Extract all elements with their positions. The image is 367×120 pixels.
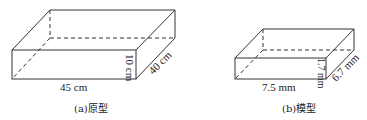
caption-a: (a)原型 xyxy=(74,102,108,114)
caption-b: (b)模型 xyxy=(282,102,316,114)
depth-label-b: 6.7 mm xyxy=(329,51,362,84)
length-label-b: 7.5 mm xyxy=(262,81,296,93)
front-face-b xyxy=(235,58,326,79)
front-face-a xyxy=(12,50,136,79)
length-label-a: 45 cm xyxy=(60,81,88,93)
depth-label-a: 40 cm xyxy=(146,48,174,76)
height-label-b: 1.7 mm xyxy=(316,58,327,89)
diagram-canvas: 45 cm 10 cm 40 cm (a)原型 7.5 mm 1.7 mm 6.… xyxy=(0,0,367,120)
height-label-a: 10 cm xyxy=(124,54,136,82)
